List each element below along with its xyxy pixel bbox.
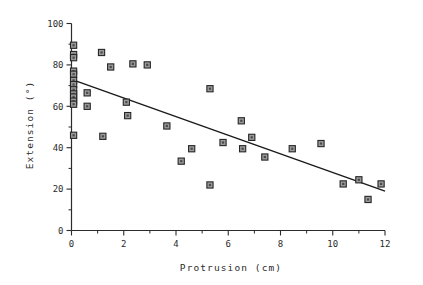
x-tick-label: 12 [380, 239, 391, 249]
y-tick-label: 40 [53, 143, 64, 153]
y-tick-label: 100 [47, 19, 63, 29]
y-tick-label: 60 [53, 102, 64, 112]
data-point-marker [178, 158, 184, 164]
data-point-marker [249, 134, 255, 140]
x-axis-title: Protrusion (cm) [180, 262, 282, 273]
data-point-marker [340, 181, 346, 187]
data-point-marker [365, 196, 371, 202]
x-tick-label: 10 [327, 239, 338, 249]
data-point-marker [164, 123, 170, 129]
data-point-marker [130, 61, 136, 67]
data-point-marker [378, 181, 384, 187]
regression-line [72, 79, 386, 191]
y-tick-label: 80 [53, 60, 64, 70]
data-point-marker [240, 146, 246, 152]
data-points [70, 42, 384, 202]
data-point-marker [100, 133, 106, 139]
x-tick-label: 8 [278, 239, 283, 249]
x-tick-label: 0 [69, 239, 74, 249]
x-tick-label: 4 [173, 239, 178, 249]
y-axis: 020406080100 [47, 19, 71, 236]
data-point-marker [84, 103, 90, 109]
x-tick-label: 2 [121, 239, 126, 249]
scatter-plot-figure: 020406080100 024681012 Protrusion (cm) E… [0, 0, 423, 285]
y-axis-title: Extension (°) [24, 81, 35, 170]
x-axis: 024681012 [69, 231, 391, 249]
data-point-marker [207, 86, 213, 92]
data-point-marker [356, 177, 362, 183]
data-point-marker [70, 71, 76, 77]
data-point-marker [220, 139, 226, 145]
data-point-marker [318, 140, 324, 146]
data-point-marker [289, 146, 295, 152]
y-tick-label: 20 [53, 184, 64, 194]
data-point-marker [262, 154, 268, 160]
data-point-marker [108, 64, 114, 70]
y-tick-label: 0 [58, 226, 63, 236]
data-point-marker [125, 113, 131, 119]
x-tick-label: 6 [226, 239, 231, 249]
data-point-marker [144, 62, 150, 68]
data-point-marker [123, 99, 129, 105]
data-point-marker [70, 101, 76, 107]
data-point-marker [70, 132, 76, 138]
data-point-marker [70, 42, 76, 48]
data-point-marker [70, 55, 76, 61]
data-point-marker [84, 90, 90, 96]
data-point-marker [189, 146, 195, 152]
data-point-marker [207, 182, 213, 188]
data-point-marker [238, 118, 244, 124]
data-point-marker [98, 49, 104, 55]
chart-canvas: 020406080100 024681012 Protrusion (cm) E… [0, 0, 423, 285]
